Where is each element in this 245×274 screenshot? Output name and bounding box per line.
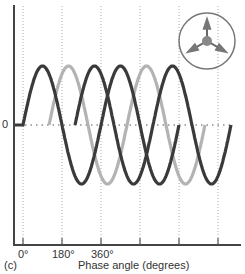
x-tick-label-0: 0° — [18, 248, 29, 260]
three-phase-waveform-figure — [0, 0, 245, 274]
x-axis-ticks — [23, 238, 218, 245]
panel-label: (c) — [4, 259, 17, 271]
waveforms — [14, 66, 231, 184]
phasor-arrow-icon — [214, 43, 228, 54]
y-zero-label: 0 — [2, 118, 8, 130]
phasor-arrow-icon — [203, 16, 212, 30]
phasor-inset-icon — [179, 13, 235, 69]
x-tick-label-180: 180° — [52, 248, 75, 260]
phasor-arrow-icon — [185, 43, 199, 54]
x-axis-title: Phase angle (degrees) — [78, 259, 189, 271]
vertical-gridlines — [23, 6, 218, 244]
